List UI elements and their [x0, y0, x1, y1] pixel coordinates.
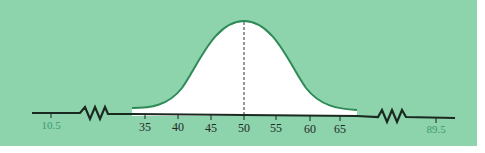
tick-label-40: 40: [172, 120, 184, 134]
tick-label-55: 55: [270, 121, 282, 135]
tick-label-35: 35: [139, 120, 151, 134]
tick-label-50: 50: [238, 121, 250, 135]
tick-label-45: 45: [205, 121, 217, 135]
axis-left-end-label: 10.5: [41, 119, 61, 131]
normal-distribution-diagram: 35 40 45 50 55 60 65 10.5 89.5: [0, 0, 485, 153]
axis-right-end-label: 89.5: [426, 123, 446, 135]
tick-label-60: 60: [304, 122, 316, 136]
tick-label-65: 65: [334, 122, 346, 136]
